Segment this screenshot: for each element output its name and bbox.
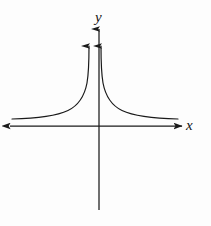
y-axis-label: y [95, 10, 102, 25]
curve-left-branch [12, 46, 89, 119]
curve-right-branch [101, 46, 178, 119]
graph-canvas [0, 0, 211, 226]
curve-right-path [101, 46, 178, 119]
curve-left-path [12, 46, 89, 119]
x-axis-label: x [186, 118, 193, 133]
graph-figure: y x [0, 0, 211, 226]
